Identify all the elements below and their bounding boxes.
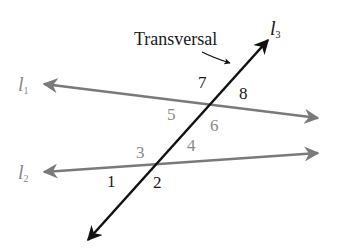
angle-label-3: 3 bbox=[136, 144, 145, 161]
line-l1 bbox=[44, 84, 318, 118]
callout-arrow bbox=[202, 52, 230, 63]
transversal-label: Transversal bbox=[134, 30, 217, 48]
angle-label-1: 1 bbox=[107, 173, 116, 190]
line-label-l3: l3 bbox=[270, 18, 281, 40]
angle-label-8: 8 bbox=[239, 85, 248, 102]
angle-label-7: 7 bbox=[198, 74, 207, 91]
line-label-l2: l2 bbox=[18, 162, 29, 184]
angle-label-4: 4 bbox=[187, 137, 196, 154]
transversal-diagram: Transversal l3 l1 l2 7 8 5 6 3 4 1 2 bbox=[0, 0, 338, 252]
angle-label-6: 6 bbox=[210, 117, 219, 134]
angle-label-2: 2 bbox=[153, 174, 162, 191]
line-l2 bbox=[44, 153, 318, 172]
angle-label-5: 5 bbox=[167, 106, 176, 123]
line-l3-transversal bbox=[88, 40, 268, 240]
line-label-l1: l1 bbox=[18, 74, 29, 96]
